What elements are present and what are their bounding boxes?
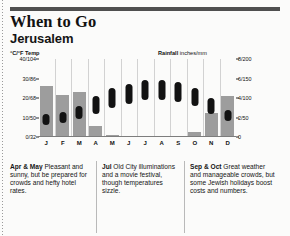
month-column: N <box>205 59 218 137</box>
temperature-range-bar <box>175 82 182 102</box>
month-label: J <box>127 140 130 147</box>
column-separator <box>137 59 138 137</box>
rainfall-axis-caption: Rainfall inches/mm <box>158 50 207 57</box>
caption-group: Apr & May Pleasant and sunny, but be pre… <box>10 163 282 233</box>
temperature-tick-mark <box>36 78 39 79</box>
month-label: J <box>144 140 147 147</box>
caption-lead: Apr & May <box>10 163 43 170</box>
page-subtitle: Jerusalem <box>10 31 210 46</box>
temperature-range-bar <box>109 88 116 108</box>
caption-text: Old City illuminations and a movie festi… <box>102 163 175 194</box>
month-label: M <box>77 140 82 147</box>
month-label: J <box>45 140 48 147</box>
title-block: When to Go Jerusalem <box>10 13 210 46</box>
month-label: F <box>61 140 65 147</box>
month-label: S <box>176 140 180 147</box>
column-separator <box>170 59 171 137</box>
month-column: M <box>73 59 86 137</box>
temperature-tick-mark <box>36 98 39 99</box>
rainfall-tick-mark <box>236 98 239 99</box>
temperature-range-bar <box>92 96 99 114</box>
caption-apr-may: Apr & May Pleasant and sunny, but be pre… <box>10 163 96 233</box>
month-label: N <box>209 140 213 147</box>
month-column: D <box>221 59 234 137</box>
month-column: O <box>188 59 201 137</box>
temperature-tick-mark <box>36 117 39 118</box>
rainfall-bar <box>205 113 218 137</box>
caption-lead: Jul <box>102 163 112 170</box>
column-separator <box>154 59 155 137</box>
month-column: A <box>89 59 102 137</box>
rainfall-axis-caption-bold: Rainfall <box>158 50 178 56</box>
month-column: F <box>56 59 69 137</box>
temperature-range-bar <box>208 98 215 114</box>
temperature-range-bar <box>158 80 165 100</box>
temperature-range-bar <box>224 110 231 122</box>
temperature-range-bar <box>76 106 83 120</box>
climate-chart: °C/°F Temp Rainfall inches/mm 40/10430/8… <box>10 50 280 152</box>
rainfall-tick-mark <box>236 117 239 118</box>
temperature-tick-mark <box>36 59 39 60</box>
rainfall-tick-mark <box>236 59 239 60</box>
month-label: A <box>160 140 164 147</box>
month-column: J <box>122 59 135 137</box>
plot-area: 40/10430/8620/6810/500/32 8/2006/1504/10… <box>38 59 236 137</box>
column-separator <box>104 59 105 137</box>
header-rule <box>10 7 280 11</box>
month-label: A <box>94 140 98 147</box>
axis-baseline <box>38 136 236 137</box>
rainfall-bar <box>40 86 53 137</box>
rainfall-axis-caption-units: inches/mm <box>180 50 207 56</box>
temperature-range-bar <box>142 80 149 100</box>
month-label: O <box>192 140 197 147</box>
temperature-range-bar <box>191 88 198 106</box>
column-separator <box>121 59 122 137</box>
dotted-margin-rule <box>2 0 3 236</box>
caption-divider <box>184 161 185 233</box>
caption-jul: Jul Old City illuminations and a movie f… <box>96 163 184 233</box>
column-separator <box>187 59 188 137</box>
month-column: A <box>155 59 168 137</box>
month-label: D <box>226 140 230 147</box>
month-label: M <box>110 140 115 147</box>
month-column: J <box>139 59 152 137</box>
month-column: J <box>40 59 53 137</box>
caption-divider <box>96 161 97 233</box>
month-column: S <box>172 59 185 137</box>
page-title: When to Go <box>10 13 210 31</box>
caption-lead: Sep & Oct <box>190 163 222 170</box>
month-column: M <box>106 59 119 137</box>
rainfall-tick-mark <box>236 78 239 79</box>
caption-sep-oct: Sep & Oct Great weather and manageable c… <box>184 163 282 233</box>
temperature-range-bar <box>125 84 132 104</box>
temperature-range-bar <box>59 112 66 124</box>
temperature-range-bar <box>43 114 50 126</box>
